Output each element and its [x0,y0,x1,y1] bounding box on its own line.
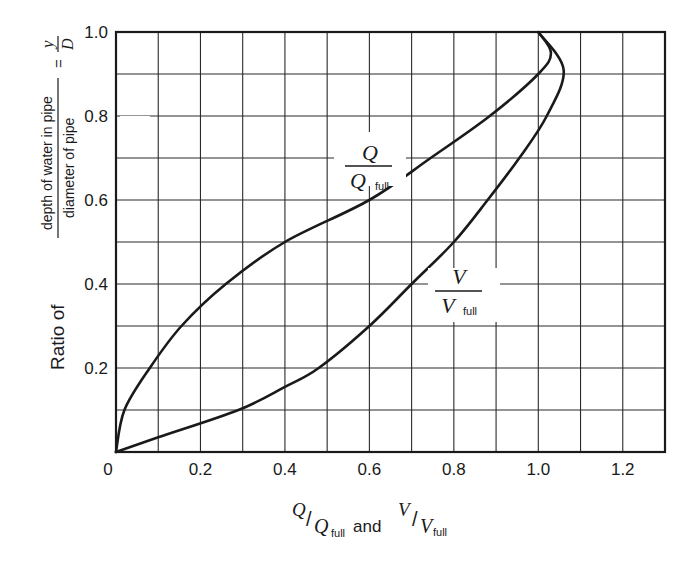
curve-label-q-denominator: Q [350,168,366,193]
y-label-denominator: diameter of pipe [61,117,77,218]
y-tick-label: 0.2 [84,359,108,378]
x-label-qfull: Q [314,515,329,537]
y-axis-label: Ratio of depth of water in pipe diameter… [38,36,77,370]
x-label-q-subscript: full [331,527,345,539]
x-label-v: V [398,499,412,520]
x-tick-label: 0.4 [273,460,297,479]
grid-lines [116,32,665,452]
x-tick-label: 1.0 [526,460,550,479]
x-tick-label: 0.6 [358,460,382,479]
grid-gap [120,116,150,121]
x-label-q: Q [292,499,306,520]
y-label-d: D [59,38,76,51]
x-label-slash-1: / [306,508,312,530]
x-label-and: and [353,517,381,536]
curve-label-q-subscript: full [375,180,389,192]
y-label-y: y [38,40,57,50]
curve-label-v-subscript: full [463,305,477,317]
x-tick-label: 0.2 [189,460,213,479]
y-label-numerator: depth of water in pipe [39,96,55,230]
chart-figure: Q Q full V V full 0.20.40.60.81.01.2 0.2… [0,0,688,562]
x-tick-label: 0.8 [442,460,466,479]
y-tick-label: 1.0 [84,23,108,42]
x-axis-ticks: 0.20.40.60.81.01.2 [189,460,635,479]
x-label-v-subscript: full [433,526,447,538]
x-axis-label: Q / Q full and V / V full [292,499,447,539]
x-tick-label: 1.2 [611,460,635,479]
curve-label-q-numerator: Q [362,140,378,165]
x-label-slash-2: / [412,508,418,530]
y-tick-label: 0.8 [84,107,108,126]
y-tick-label: 0.4 [84,275,108,294]
y-tick-label: 0.6 [84,191,108,210]
y-axis-ticks: 0.20.40.60.81.0 [84,23,108,378]
y-label-equals: = [50,59,67,68]
y-label-ratio-of: Ratio of [47,304,68,370]
origin-label: 0 [103,460,112,479]
